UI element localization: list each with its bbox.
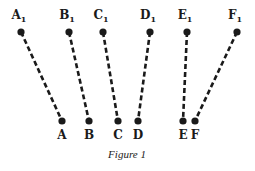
bottom-point-label: C xyxy=(113,128,123,142)
dashed-segments: A1AB1BC1CD1DE1EF1F xyxy=(11,8,243,142)
bottom-point-dot xyxy=(85,117,92,124)
top-point-label: E1 xyxy=(178,8,193,24)
dashed-line xyxy=(138,32,150,121)
segment-c: C1C xyxy=(93,8,122,142)
figure-diagram: A1AB1BC1CD1DE1EF1F Figure 1 xyxy=(0,0,255,171)
segment-a: A1A xyxy=(11,8,68,142)
top-point-label: A1 xyxy=(11,8,27,24)
top-point-dot xyxy=(146,28,153,35)
figure-caption: Figure 1 xyxy=(107,148,146,160)
top-point-label: C1 xyxy=(93,8,108,24)
dashed-line xyxy=(183,32,187,121)
top-point-dot xyxy=(17,28,24,35)
dashed-line xyxy=(195,32,237,121)
top-point-label: F1 xyxy=(228,8,242,24)
bottom-point-label: F xyxy=(191,128,200,142)
bottom-point-dot xyxy=(114,117,121,124)
bottom-point-label: A xyxy=(56,128,67,142)
dashed-line xyxy=(103,32,118,121)
bottom-point-dot xyxy=(179,117,186,124)
dashed-line xyxy=(69,32,89,121)
segment-f: F1F xyxy=(191,8,242,142)
top-point-label: D1 xyxy=(140,8,156,24)
top-point-dot xyxy=(233,28,240,35)
bottom-point-dot xyxy=(58,117,65,124)
top-point-dot xyxy=(65,28,72,35)
bottom-point-label: B xyxy=(84,128,94,142)
top-point-dot xyxy=(99,28,106,35)
top-point-dot xyxy=(183,28,190,35)
segment-d: D1D xyxy=(133,8,156,142)
bottom-point-dot xyxy=(134,117,141,124)
top-point-label: B1 xyxy=(59,8,75,24)
bottom-point-dot xyxy=(191,117,198,124)
segment-e: E1E xyxy=(178,8,193,142)
dashed-line xyxy=(21,32,62,121)
bottom-point-label: E xyxy=(178,128,187,142)
bottom-point-label: D xyxy=(133,128,143,142)
